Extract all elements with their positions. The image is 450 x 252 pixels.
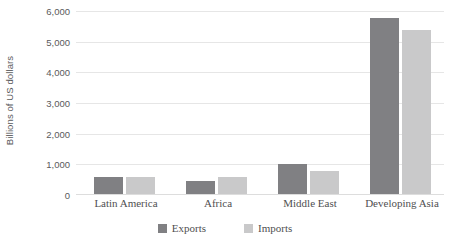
x-axis-category-label: Latin America: [84, 197, 168, 209]
x-axis-line: [76, 194, 444, 195]
y-axis-tick-label: 2,000: [18, 128, 70, 139]
bar-imports-developing-asia: [402, 30, 431, 194]
y-axis-tick-label: 0: [18, 190, 70, 201]
bar-group-developing-asia: [360, 0, 444, 194]
bar-imports-latin-america: [126, 177, 155, 194]
bar-group-latin-america: [84, 0, 168, 194]
y-axis-title: Billions of US dollars: [0, 0, 20, 200]
y-axis-tick-label: 4,000: [18, 67, 70, 78]
bar-exports-latin-america: [94, 177, 123, 194]
y-axis-tick-label: 1,000: [18, 159, 70, 170]
bar-exports-middle-east: [278, 164, 307, 194]
legend-item-imports: Imports: [244, 222, 292, 234]
y-axis-title-text: Billions of US dollars: [5, 55, 16, 144]
square-swatch-icon: [158, 224, 167, 233]
bar-group-africa: [176, 0, 260, 194]
x-axis-category-labels: Latin America Africa Middle East Develop…: [76, 197, 444, 215]
x-axis-category-label: Developing Asia: [354, 197, 450, 209]
chart-legend: Exports Imports: [0, 222, 450, 234]
plot-area: [76, 0, 444, 195]
bar-chart: Billions of US dollars 6,000 5,000 4,000…: [0, 0, 450, 252]
y-axis-tick-label: 3,000: [18, 98, 70, 109]
bar-imports-middle-east: [310, 171, 339, 194]
bar-exports-developing-asia: [370, 18, 399, 194]
legend-item-exports: Exports: [158, 222, 206, 234]
square-swatch-icon: [244, 224, 253, 233]
x-axis-category-label: Middle East: [268, 197, 352, 209]
x-axis-category-label: Africa: [176, 197, 260, 209]
legend-item-label: Exports: [172, 222, 206, 234]
y-axis-tick-label: 6,000: [18, 6, 70, 17]
bar-imports-africa: [218, 177, 247, 194]
bar-group-middle-east: [268, 0, 352, 194]
y-axis-tick-label: 5,000: [18, 36, 70, 47]
bar-exports-africa: [186, 181, 215, 194]
legend-item-label: Imports: [258, 222, 292, 234]
y-axis-tick-labels: 6,000 5,000 4,000 3,000 2,000 1,000 0: [18, 0, 74, 200]
